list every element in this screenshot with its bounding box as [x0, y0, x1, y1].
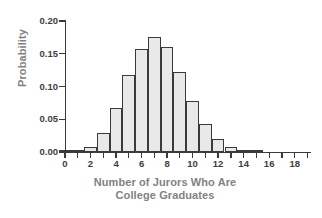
x-axis-title-line-1: Number of Jurors Who Are [40, 176, 290, 189]
histogram-bar [199, 124, 212, 152]
y-tick-label: 0.20 [28, 16, 58, 26]
x-axis-title: Number of Jurors Who Are College Graduat… [40, 176, 290, 203]
x-tick-label: 12 [207, 159, 229, 169]
x-tick-label: 6 [131, 159, 153, 169]
x-tick-mark [154, 153, 155, 158]
x-tick-mark [307, 153, 308, 158]
x-tick-label: 18 [284, 159, 306, 169]
x-tick-label: 0 [54, 159, 76, 169]
plot-area [65, 21, 310, 152]
x-tick-label: 16 [258, 159, 280, 169]
histogram-bar [135, 49, 148, 152]
y-tick-label: 0.15 [28, 49, 58, 59]
x-tick-label: 8 [156, 159, 178, 169]
x-tick-mark [281, 153, 282, 158]
histogram-bar [122, 75, 135, 152]
histogram-bar [59, 150, 72, 152]
x-tick-mark [230, 153, 231, 158]
x-tick-mark [256, 153, 257, 158]
histogram-bar [186, 101, 199, 152]
x-tick-mark [77, 153, 78, 158]
y-tick-label: 0.05 [28, 114, 58, 124]
x-tick-mark [179, 153, 180, 158]
histogram-bar [84, 147, 97, 152]
x-tick-label: 2 [80, 159, 102, 169]
histogram-bar [161, 47, 174, 152]
histogram-bar [237, 150, 250, 152]
histogram-bar [225, 147, 238, 152]
histogram-bar [71, 150, 84, 152]
x-tick-mark [128, 153, 129, 158]
histogram-bar [110, 108, 123, 152]
histogram-bar [97, 133, 110, 152]
histogram-bar [148, 37, 161, 152]
x-tick-label: 4 [105, 159, 127, 169]
histogram-figure: Probability 0.000.050.100.150.20 0246810… [0, 0, 322, 218]
x-tick-mark [205, 153, 206, 158]
histogram-bar [250, 150, 263, 152]
y-tick-label: 0.10 [28, 82, 58, 92]
x-axis-title-line-2: College Graduates [40, 189, 290, 202]
x-tick-label: 14 [233, 159, 255, 169]
x-tick-mark [103, 153, 104, 158]
histogram-bar [212, 139, 225, 152]
y-tick-label: 0.00 [28, 147, 58, 157]
x-tick-label: 10 [182, 159, 204, 169]
histogram-bar [173, 72, 186, 152]
